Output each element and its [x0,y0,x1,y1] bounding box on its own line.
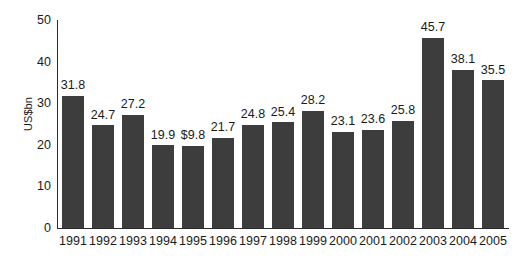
bar-group: 24.7 [88,20,118,228]
bar[interactable] [62,96,84,228]
bar-group: 25.8 [388,20,418,228]
bar-group: 25.4 [268,20,298,228]
bar-value-label: 25.4 [263,106,303,119]
y-axis-tick-labels: 01020304050 [0,0,57,268]
x-axis-line [57,228,509,229]
bar[interactable] [182,146,204,228]
bar-value-label: 31.8 [53,79,93,92]
bar-value-label: 25.8 [383,104,423,117]
bar-value-label: 28.2 [293,94,333,107]
bar-group: 23.6 [358,20,388,228]
bar-chart: US$bn 01020304050 31.824.727.219.9$9.821… [0,0,519,268]
y-axis-tick: 50 [37,14,51,27]
bar-group: 38.1 [448,20,478,228]
bar-group: 21.7 [208,20,238,228]
bar[interactable] [392,121,414,228]
bar-group: 24.8 [238,20,268,228]
bar-group: 45.7 [418,20,448,228]
y-axis-tick: 0 [44,222,51,235]
bar[interactable] [92,125,114,228]
y-axis-tick: 40 [37,56,51,69]
bar-group: 27.2 [118,20,148,228]
bar[interactable] [332,132,354,228]
bar[interactable] [152,145,174,228]
bar[interactable] [452,70,474,228]
bar-value-label: 45.7 [413,21,453,34]
x-axis-tick-labels: 1991199219931994199519961997199819992000… [58,234,509,258]
bar-group: 35.5 [478,20,508,228]
bar-group: 31.8 [58,20,88,228]
bar[interactable] [482,80,504,228]
bar-group: 19.9 [148,20,178,228]
plot-area: 31.824.727.219.9$9.821.724.825.428.223.1… [58,20,509,228]
bar-value-label: 21.7 [203,121,243,134]
bar[interactable] [212,138,234,228]
bar[interactable] [242,125,264,228]
bar[interactable] [122,115,144,228]
bar[interactable] [302,111,324,228]
bar[interactable] [272,122,294,228]
bar-value-label: 35.5 [473,64,513,77]
bar[interactable] [362,130,384,228]
bar-value-label: 27.2 [113,98,153,111]
bar[interactable] [422,38,444,228]
y-axis-tick: 10 [37,180,51,193]
x-axis-tick: 2005 [475,234,511,249]
y-axis-tick: 20 [37,139,51,152]
y-axis-tick: 30 [37,97,51,110]
